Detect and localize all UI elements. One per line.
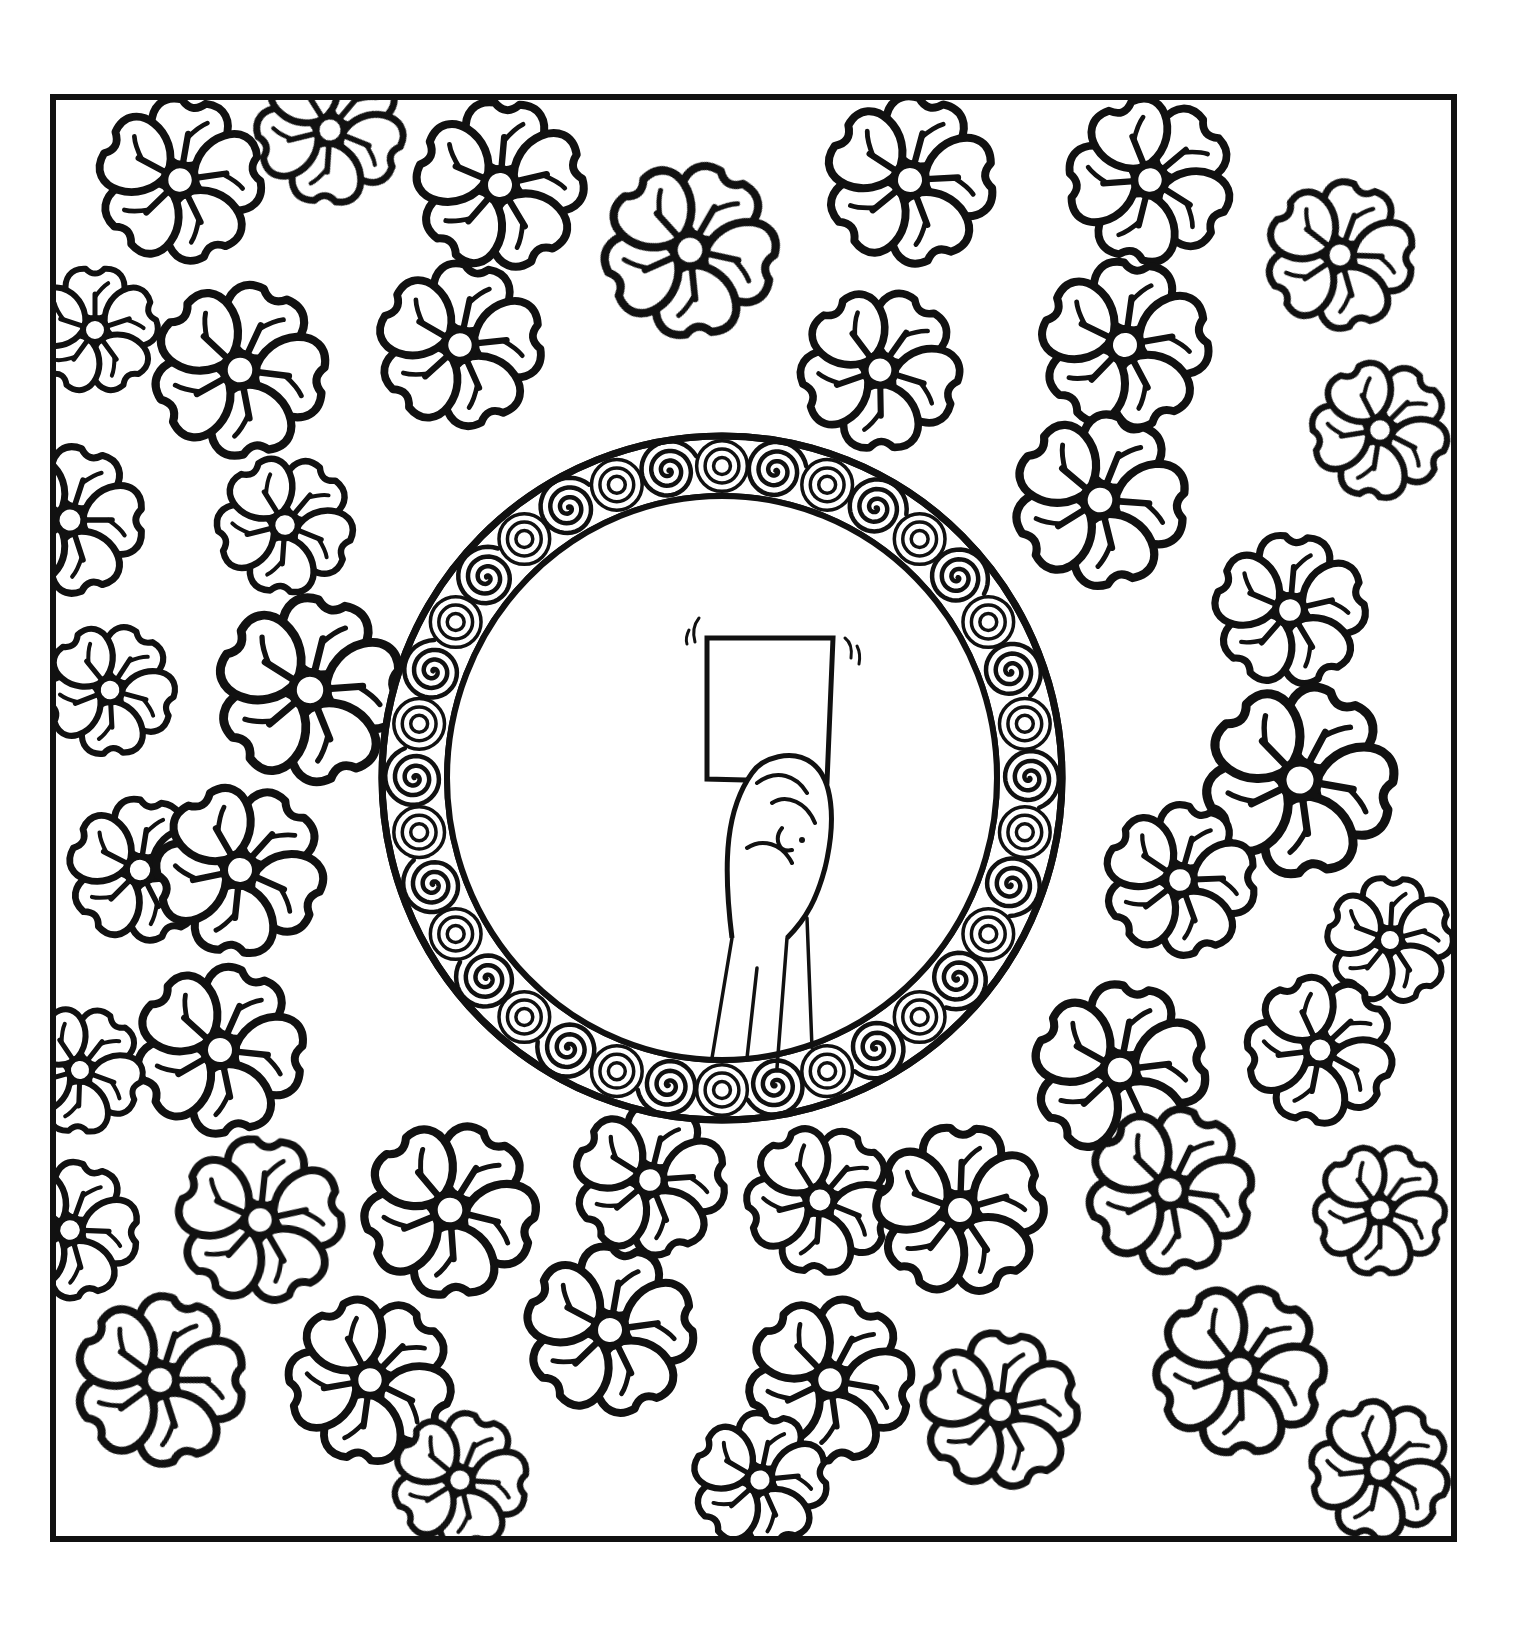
coloring-page-artwork — [0, 0, 1520, 1632]
